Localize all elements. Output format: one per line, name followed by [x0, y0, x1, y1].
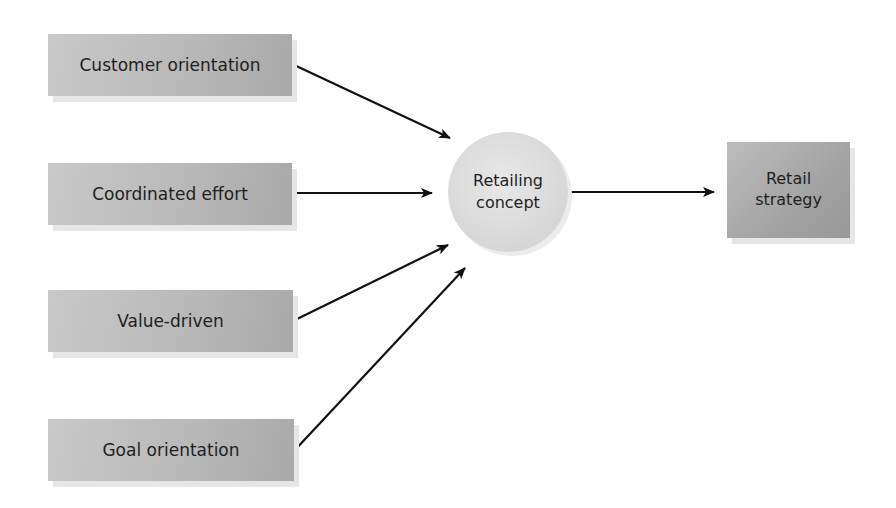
node-value-driven: Value-driven	[48, 290, 293, 352]
node-goal-orientation: Goal orientation	[48, 419, 294, 481]
node-retailing-concept: Retailing concept	[448, 132, 568, 252]
node-label-line1: Retailing	[473, 170, 543, 192]
node-label: Coordinated effort	[92, 183, 248, 205]
node-label: Value-driven	[117, 310, 224, 332]
node-label: Customer orientation	[80, 54, 261, 76]
node-coordinated-effort: Coordinated effort	[48, 163, 292, 225]
node-label-line2: concept	[473, 192, 543, 214]
arrow-goal-orientation	[294, 268, 465, 451]
arrow-customer-orientation	[292, 64, 450, 138]
node-label-line2: strategy	[755, 190, 822, 211]
node-label-line1: Retail	[755, 169, 822, 190]
node-label: Goal orientation	[102, 439, 239, 461]
node-customer-orientation: Customer orientation	[48, 34, 292, 96]
node-retail-strategy: Retail strategy	[727, 142, 850, 238]
